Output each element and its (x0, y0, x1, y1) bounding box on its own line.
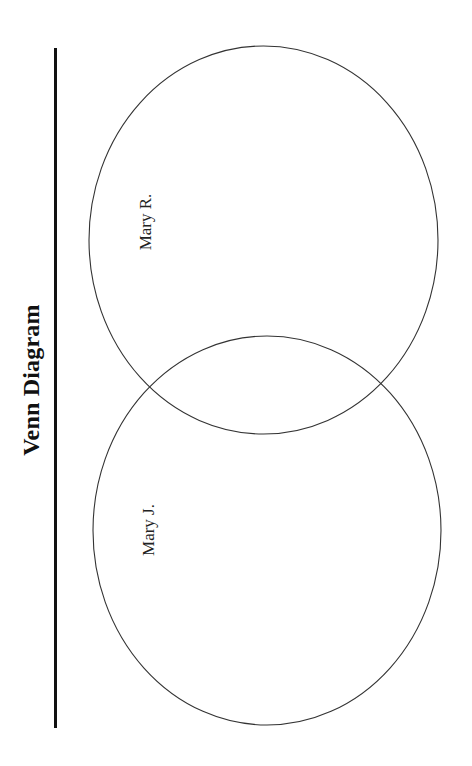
set-label-mary-j: Mary J. (139, 504, 159, 556)
venn-circles (0, 0, 472, 766)
venn-diagram-page: Venn Diagram Mary R. Mary J. (0, 0, 472, 766)
set-label-mary-r: Mary R. (136, 194, 156, 251)
